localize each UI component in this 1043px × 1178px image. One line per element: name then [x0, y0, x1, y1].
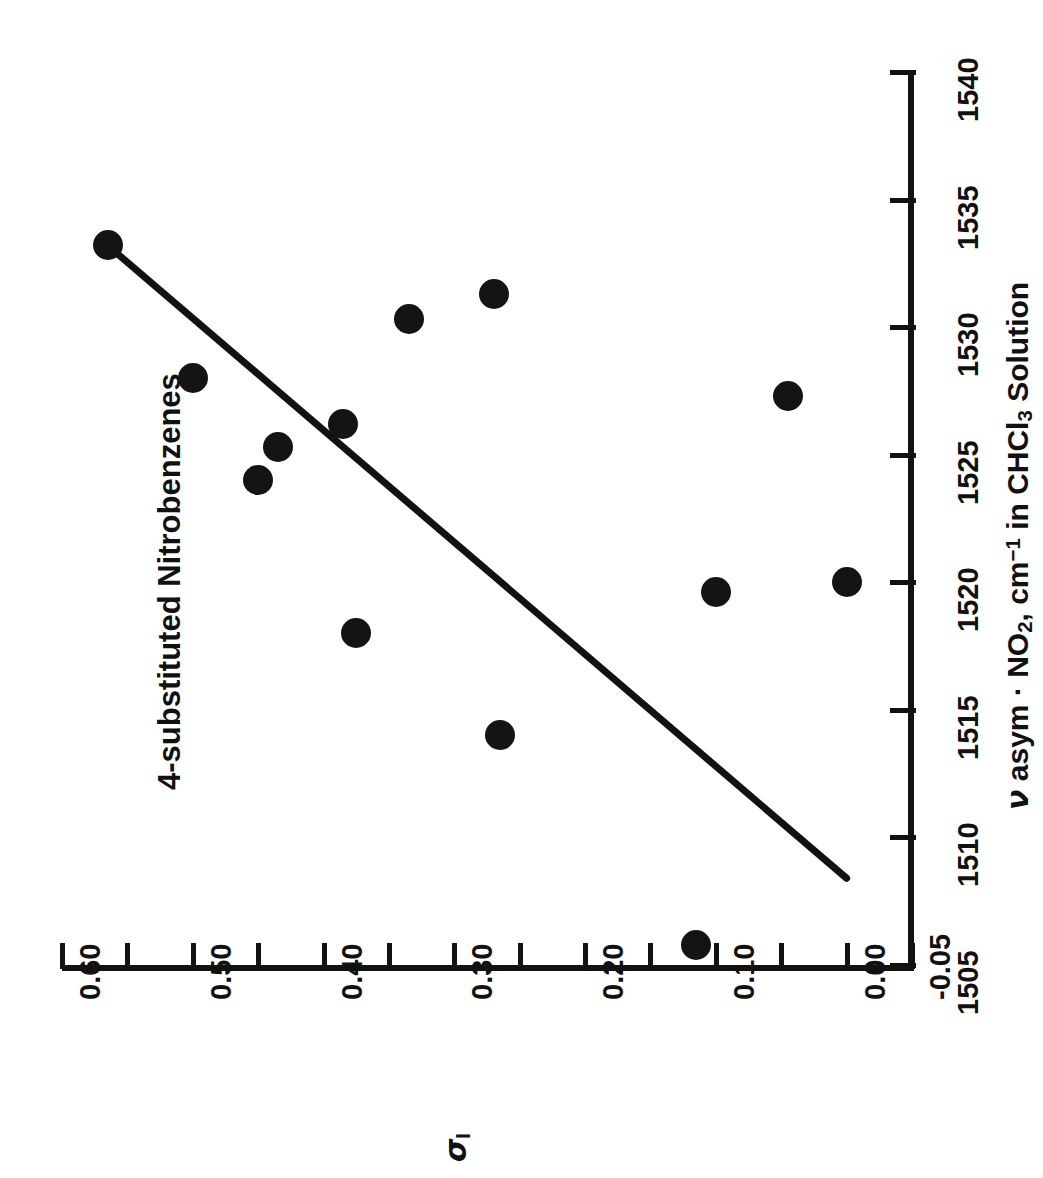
sigma-axis-tick [845, 943, 850, 969]
nu-axis-tick-label: 1530 [952, 313, 985, 378]
data-point [93, 230, 123, 260]
nu-axis-tick-label: 1515 [952, 695, 985, 760]
nu-axis-tick-label: 1520 [952, 568, 985, 633]
sigma-axis-tick-label: 0.40 [336, 944, 369, 1000]
sigma-axis-tick-label: -0.05 [924, 934, 957, 1000]
data-point [341, 618, 371, 648]
sigma-axis-tick [322, 943, 327, 969]
nu-axis-title: ν asym · NO2, cm−1 in CHCl3 Solution [1000, 282, 1037, 810]
sigma-axis-title: σI [438, 1133, 475, 1162]
nu-axis-tick [890, 580, 916, 585]
sigma-axis-tick [518, 943, 523, 969]
no2-subscript: 2 [1014, 621, 1036, 632]
solution-text: Solution [1001, 282, 1034, 410]
nu-axis-tick [890, 325, 916, 330]
data-point [701, 577, 731, 607]
data-point [485, 720, 515, 750]
nu-axis-tick [890, 70, 916, 75]
sigma-axis-tick [648, 943, 653, 969]
figure-scatter-plot: 150515101515152015251530153515400.600.50… [0, 0, 1043, 1178]
sigma-axis-tick-label: 0.20 [597, 944, 630, 1000]
sigma-axis-tick [583, 943, 588, 969]
data-point [243, 465, 273, 495]
regression-line [108, 245, 847, 878]
nu-axis-tick [890, 835, 916, 840]
plot-title: 4-substituted Nitrobenzenes [152, 373, 188, 790]
sigma-axis-tick [714, 943, 719, 969]
sigma-axis-tick-label: 0.30 [466, 944, 499, 1000]
data-point [479, 279, 509, 309]
sigma-axis-tick [387, 943, 392, 969]
sigma-axis-tick [452, 943, 457, 969]
data-point [681, 930, 711, 960]
sigma-axis-tick [191, 943, 196, 969]
sigma-subscript: I [452, 1133, 474, 1139]
nu-glyph: ν [1000, 790, 1035, 810]
data-point [328, 409, 358, 439]
sigma-glyph: σ [438, 1139, 473, 1162]
data-point [263, 432, 293, 462]
sigma-axis-tick-label: 0.10 [728, 944, 761, 1000]
sigma-axis-tick-label: 0.50 [205, 944, 238, 1000]
sigma-axis-tick [60, 943, 65, 969]
nu-axis-tick [890, 453, 916, 458]
nu-axis-tick-label: 1510 [952, 823, 985, 888]
cm-exponent: −1 [1002, 538, 1024, 561]
sigma-axis-tick [256, 943, 261, 969]
data-point [832, 567, 862, 597]
sigma-axis-tick [910, 943, 915, 969]
cm-text: , cm [1001, 561, 1034, 621]
sigma-axis-tick-label: 0.60 [74, 944, 107, 1000]
nu-axis-tick [890, 198, 916, 203]
nu-axis-tick-label: 1540 [952, 57, 985, 122]
data-point [773, 381, 803, 411]
nu-asym-text: asym · NO [1001, 633, 1034, 790]
nu-axis-tick-label: 1535 [952, 185, 985, 250]
data-point [394, 304, 424, 334]
nu-axis-tick-label: 1525 [952, 440, 985, 505]
in-chcl-text: in CHCl [1001, 422, 1034, 539]
nu-axis-tick [890, 708, 916, 713]
sigma-axis-tick [125, 943, 130, 969]
sigma-axis-tick [779, 943, 784, 969]
sigma-axis-tick-label: 0.00 [859, 944, 892, 1000]
chcl3-subscript: 3 [1014, 410, 1036, 421]
